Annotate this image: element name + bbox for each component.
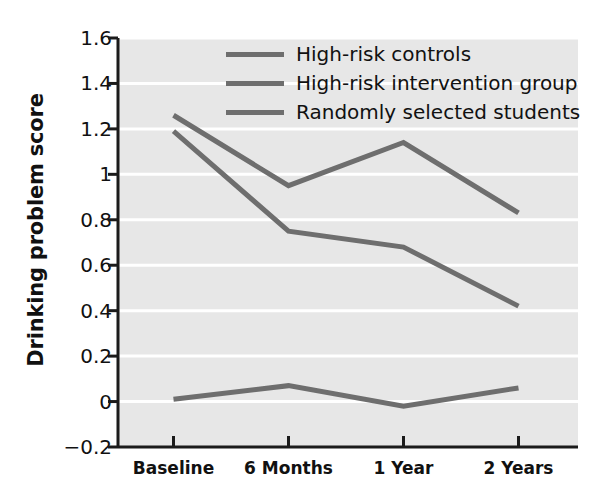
x-axis-tick-label: 1 Year — [374, 458, 434, 478]
x-axis-tick-label: 2 Years — [483, 458, 553, 478]
legend-line-swatch-icon — [226, 110, 284, 115]
legend-label: Randomly selected students — [296, 102, 580, 122]
x-axis-tick-label: 6 Months — [244, 458, 333, 478]
x-axis-tick-labels: Baseline6 Months1 Year2 Years — [0, 458, 616, 492]
legend-item-0: High-risk controls — [226, 40, 580, 68]
legend-label: High-risk controls — [296, 44, 471, 64]
legend-line-swatch-icon — [226, 52, 284, 57]
chart-legend: High-risk controlsHigh-risk intervention… — [226, 40, 580, 126]
legend-item-2: Randomly selected students — [226, 98, 580, 126]
chart-figure: Drinking problem score 1.61.41.210.80.60… — [0, 0, 616, 504]
legend-line-swatch-icon — [226, 81, 284, 86]
legend-label: High-risk intervention group — [296, 73, 578, 93]
x-axis-tick-label: Baseline — [133, 458, 214, 478]
legend-item-1: High-risk intervention group — [226, 69, 580, 97]
